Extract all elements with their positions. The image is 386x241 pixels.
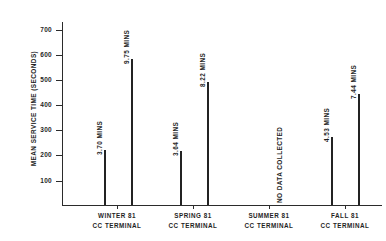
bar-value-label: 3.64 MINS <box>172 122 179 156</box>
y-tick-label: 500 <box>26 76 52 83</box>
category-label-season: FALL 81 <box>299 211 386 221</box>
bar-value-label: 4.53 MINS <box>323 108 330 142</box>
y-tick-label: 400 <box>26 101 52 108</box>
bar <box>358 94 360 205</box>
bar-chart: MEAN SERVICE TIME (SECONDS) 700600500400… <box>0 0 386 241</box>
no-data-collected-label: NO DATA COLLECTED <box>276 127 283 203</box>
bar-value-label: 3.70 MINS <box>96 121 103 155</box>
y-tick-mark <box>56 130 63 131</box>
bar <box>104 150 106 205</box>
bar <box>180 151 182 205</box>
bar-value-label: 8.22 MINS <box>199 53 206 87</box>
y-tick-mark <box>56 155 63 156</box>
bar <box>207 82 209 205</box>
y-tick-label: 600 <box>26 51 52 58</box>
category-label-terminal: CC TERMINAL <box>299 221 386 231</box>
category-label: FALL 81CC TERMINAL <box>299 211 386 230</box>
x-axis-line <box>62 205 382 206</box>
y-tick-mark <box>56 80 63 81</box>
x-tick-mark <box>117 205 118 209</box>
y-tick-mark <box>56 105 63 106</box>
x-tick-mark <box>193 205 194 209</box>
y-tick-label: 200 <box>26 151 52 158</box>
bar-value-label: 7.44 MINS <box>350 65 357 99</box>
y-tick-mark <box>56 181 63 182</box>
y-tick-mark <box>56 55 63 56</box>
y-tick-mark <box>56 30 63 31</box>
bar-value-label: 9.75 MINS <box>123 30 130 64</box>
y-axis-line <box>62 22 63 206</box>
y-tick-label: 700 <box>26 26 52 33</box>
y-tick-label: 100 <box>26 177 52 184</box>
x-tick-mark <box>345 205 346 209</box>
y-tick-label: 300 <box>26 126 52 133</box>
bar <box>331 137 333 205</box>
x-tick-mark <box>269 205 270 209</box>
y-axis-title: MEAN SERVICE TIME (SECONDS) <box>30 19 37 199</box>
bar <box>131 59 133 205</box>
